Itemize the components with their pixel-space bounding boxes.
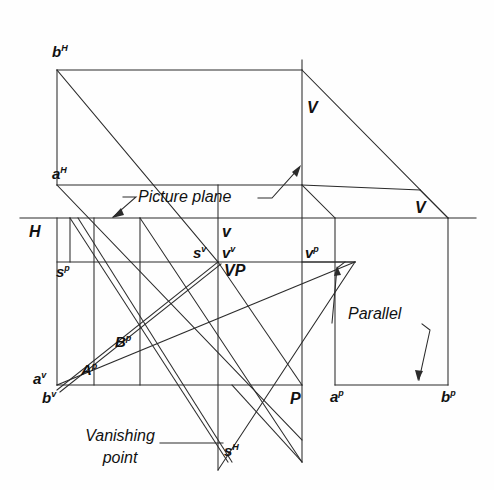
label-v-upper: V <box>307 100 318 116</box>
label-b-vertical-sup: v <box>51 389 56 399</box>
persp-roof-ridge <box>302 185 420 190</box>
label-B-perspective-sup: p <box>126 333 132 343</box>
annotation-picture-plane: Picture plane <box>138 189 231 205</box>
label-A-perspective: Ap <box>81 362 97 377</box>
label-B-perspective-text: B <box>115 333 126 350</box>
ray-from-pp-down <box>140 218 302 462</box>
label-b-perspective-text: b <box>441 388 450 405</box>
label-s-horizontal-sup: H <box>232 442 239 452</box>
label-b-vertical-text: b <box>42 389 51 406</box>
annotation-parallel: Parallel <box>348 306 401 322</box>
label-a-vertical-sup: v <box>41 370 46 380</box>
label-A-perspective-sup: p <box>92 361 98 371</box>
label-b-perspective: bp <box>441 389 456 404</box>
label-s-plan-sup: p <box>64 263 70 273</box>
annotation-vanishing-point-line2: point <box>78 450 162 466</box>
label-v-vertical-sup: v <box>230 244 235 254</box>
label-horizon: H <box>29 224 41 240</box>
label-a-horizontal: aH <box>52 166 67 181</box>
figure-canvas: bH aH H sp v sv vv VP vp V V Bp Ap av bv… <box>0 0 494 490</box>
label-s-plan: sp <box>56 264 70 279</box>
label-a-vertical: av <box>33 371 46 386</box>
label-b-horizontal-text: b <box>52 43 61 60</box>
annotation-vanishing-point-line1: Vanishing <box>78 428 162 444</box>
label-v-perspective: vp <box>305 245 319 260</box>
label-a-horizontal-sup: H <box>60 165 67 175</box>
plan-diagonal-bh <box>57 70 218 262</box>
label-a-perspective-sup: p <box>338 388 344 398</box>
projection-diagram <box>0 0 494 490</box>
label-s-horizontal: sH <box>224 443 239 458</box>
label-b-horizontal-sup: H <box>61 43 68 53</box>
persp-roof-left <box>302 185 335 218</box>
label-v-small: v <box>222 224 231 240</box>
label-B-perspective: Bp <box>115 334 131 349</box>
label-s-vertical: sv <box>193 245 206 260</box>
ray-ah-to-sh-2 <box>78 218 232 462</box>
picture-plane-arrowhead-right <box>292 165 301 177</box>
label-v-perspective-sup: p <box>313 244 319 254</box>
label-v-right: V <box>415 200 426 216</box>
ray-lower-left-up-right <box>57 262 355 385</box>
ray-vp-down-left <box>218 262 302 385</box>
label-b-vertical: bv <box>42 390 56 405</box>
label-A-perspective-text: A <box>81 361 92 378</box>
label-s-vertical-sup: v <box>201 244 206 254</box>
label-v-vertical: vv <box>222 245 235 260</box>
label-b-horizontal: bH <box>52 44 68 59</box>
label-b-perspective-sup: p <box>450 388 456 398</box>
label-vanishing-point-vp: VP <box>224 263 245 279</box>
label-P: P <box>290 391 301 407</box>
label-a-perspective: ap <box>330 389 344 404</box>
